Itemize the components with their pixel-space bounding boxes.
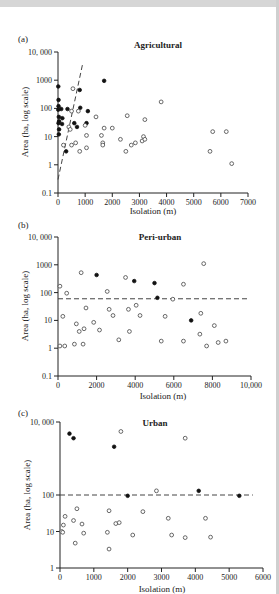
y-axis-label-b: Area (ha, log scale) bbox=[20, 271, 30, 341]
x-axis-label-c: Isolation (m) bbox=[139, 584, 186, 594]
panel-title-peri-urban: Peri-urban bbox=[139, 232, 182, 242]
x-axis-label-b: Isolation (m) bbox=[140, 391, 187, 401]
y-axis-label-a: Area (ha, log scale) bbox=[20, 87, 30, 157]
panel-label-a: (a) bbox=[18, 34, 28, 44]
y-axis-label-c: Area (ha, log scale) bbox=[22, 460, 32, 530]
panel-label-c: (c) bbox=[18, 408, 28, 418]
x-axis-label-a: Isolation (m) bbox=[130, 206, 177, 216]
panel-label-b: (b) bbox=[18, 220, 29, 230]
panel-title-agricultural: Agricultural bbox=[134, 40, 182, 50]
panel-title-urban: Urban bbox=[142, 418, 167, 428]
labels-layer: (a) Agricultural Isolation (m) Area (ha,… bbox=[0, 0, 279, 594]
